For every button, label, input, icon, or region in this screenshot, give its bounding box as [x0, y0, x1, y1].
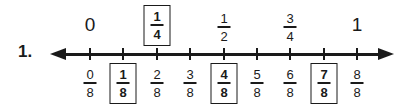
fraction-bar [251, 82, 264, 84]
tick-4 [223, 48, 225, 60]
denominator: 8 [119, 86, 126, 99]
fraction-bar [218, 26, 231, 28]
tick-3 [189, 48, 191, 60]
denominator: 8 [286, 86, 293, 99]
fraction-bar [351, 82, 364, 84]
tick-5 [256, 48, 258, 60]
numerator: 8 [353, 68, 360, 81]
fraction-bar [184, 82, 197, 84]
top-label-three-fourths: 3 4 [284, 12, 297, 43]
tick-7 [323, 48, 325, 60]
fraction-bar [284, 26, 297, 28]
denominator: 8 [320, 86, 327, 99]
fraction-bar [84, 82, 97, 84]
tick-8 [356, 48, 358, 60]
denominator: 8 [253, 86, 260, 99]
tick-0 [89, 48, 91, 60]
bottom-label-4-8-boxed: 4 8 [211, 63, 238, 104]
top-label-one-half: 1 2 [218, 12, 231, 43]
numerator: 0 [86, 68, 93, 81]
bottom-label-2-8: 2 8 [151, 68, 164, 99]
top-label-one-fourth-boxed: 1 4 [144, 5, 171, 46]
problem-number: 1. [18, 42, 32, 62]
numerator: 1 [153, 10, 160, 23]
bottom-label-5-8: 5 8 [251, 68, 264, 99]
bottom-label-0-8: 0 8 [84, 68, 97, 99]
numerator: 3 [286, 12, 293, 25]
numerator: 7 [320, 68, 327, 81]
numerator: 1 [220, 12, 227, 25]
tick-1 [122, 48, 124, 60]
numerator: 3 [186, 68, 193, 81]
fraction-bar [151, 24, 164, 26]
denominator: 8 [353, 86, 360, 99]
numerator: 6 [286, 68, 293, 81]
arrow-right-icon [378, 48, 394, 60]
numerator: 4 [220, 68, 227, 81]
denominator: 8 [220, 86, 227, 99]
fraction-bar [318, 82, 331, 84]
fraction-bar [151, 82, 164, 84]
denominator: 8 [86, 86, 93, 99]
numerator: 5 [253, 68, 260, 81]
bottom-label-6-8: 6 8 [284, 68, 297, 99]
bottom-label-8-8: 8 8 [351, 68, 364, 99]
denominator: 8 [186, 86, 193, 99]
fraction-bar [284, 82, 297, 84]
tick-2 [156, 48, 158, 60]
denominator: 8 [153, 86, 160, 99]
bottom-label-1-8-boxed: 1 8 [110, 63, 137, 104]
numerator: 1 [119, 68, 126, 81]
top-label-one: 1 [352, 14, 363, 36]
bottom-label-3-8: 3 8 [184, 68, 197, 99]
tick-6 [289, 48, 291, 60]
bottom-label-7-8-boxed: 7 8 [311, 63, 338, 104]
denominator: 4 [153, 28, 160, 41]
top-label-zero: 0 [85, 14, 96, 36]
fraction-bar [218, 82, 231, 84]
numerator: 2 [153, 68, 160, 81]
denominator: 4 [286, 30, 293, 43]
fraction-bar [117, 82, 130, 84]
denominator: 2 [220, 30, 227, 43]
